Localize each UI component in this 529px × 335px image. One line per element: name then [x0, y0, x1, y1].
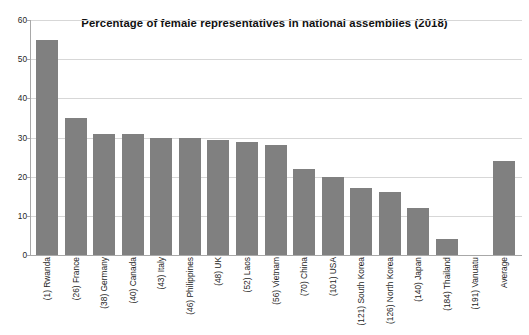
x-axis-tick-label: (38) Germany [93, 257, 115, 333]
x-axis-tick-label: (52) Laos [236, 257, 258, 333]
x-axis-tick-label: (101) USA [322, 257, 344, 333]
x-axis-tick-label: (46) Philippines [179, 257, 201, 333]
y-tick-mark-40 [27, 98, 30, 99]
x-axis-tick-label-text: (140) Japan [414, 257, 422, 302]
y-axis-ticks: 0102030405060 [0, 20, 27, 255]
y-tick-mark-0 [27, 255, 30, 256]
x-axis-tick-label-text: (43) Italy [157, 257, 165, 290]
x-axis-tick-label-text: (184) Thailand [442, 257, 450, 311]
x-axis-tick-label: (191) Vanuatu [464, 257, 486, 333]
bar [122, 134, 144, 255]
x-axis-tick-label: (40) Canada [122, 257, 144, 333]
y-tick-mark-20 [27, 177, 30, 178]
y-tick-mark-60 [27, 20, 30, 21]
bar-series [31, 20, 522, 255]
x-axis-tick-label-text: (1) Rwanda [43, 257, 51, 300]
bar [379, 192, 401, 255]
y-tick-label-30: 30 [3, 134, 27, 142]
y-tick-label-20: 20 [3, 173, 27, 181]
x-axis-tick-label: (1) Rwanda [36, 257, 58, 333]
bar [207, 140, 229, 255]
y-tick-mark-30 [27, 138, 30, 139]
x-axis-tick-label-text: (121) South Korea [357, 257, 365, 325]
bar [407, 208, 429, 255]
bar [493, 161, 515, 255]
x-axis-tick-label-text: (56) Vietnam [271, 257, 279, 305]
bar [93, 134, 115, 255]
x-axis-tick-label: (121) South Korea [350, 257, 372, 333]
x-axis-tick-label-text: (46) Philippines [186, 257, 194, 315]
y-tick-label-60: 60 [3, 16, 27, 24]
x-axis-tick-label: (140) Japan [407, 257, 429, 333]
x-axis-labels: (1) Rwanda(26) France(38) Germany(40) Ca… [31, 257, 522, 335]
x-axis-tick-label-text: (48) UK [214, 257, 222, 286]
y-tick-mark-10 [27, 216, 30, 217]
y-tick-label-50: 50 [3, 55, 27, 63]
x-axis-tick-label: (26) France [65, 257, 87, 333]
y-tick-label-10: 10 [3, 212, 27, 220]
bar [436, 239, 458, 255]
bar [265, 145, 287, 255]
bar [179, 138, 201, 255]
x-axis-tick-label: Average [493, 257, 515, 333]
bar [293, 169, 315, 255]
bar [150, 138, 172, 256]
x-axis-tick-label-text: (70) China [300, 257, 308, 296]
bar [236, 142, 258, 255]
x-axis-tick-label: (126) North Korea [379, 257, 401, 333]
x-axis-tick-label-text: (26) France [72, 257, 80, 300]
bar [36, 40, 58, 255]
x-axis-tick-label: (184) Thailand [436, 257, 458, 333]
x-axis-tick-label: (48) UK [207, 257, 229, 333]
x-axis-tick-label-text: (38) Germany [100, 257, 108, 309]
y-tick-label-0: 0 [3, 251, 27, 259]
x-axis-tick-label-text: (52) Laos [243, 257, 251, 292]
x-axis-tick-label-text: (191) Vanuatu [471, 257, 479, 309]
x-axis-tick-label-text: (101) USA [328, 257, 336, 296]
x-axis-tick-label-text: (126) North Korea [385, 257, 393, 324]
bar [65, 118, 87, 255]
x-axis-tick-label: (56) Vietnam [265, 257, 287, 333]
bar [350, 188, 372, 255]
x-axis-tick-label: (70) China [293, 257, 315, 333]
chart-container: Percentage of female representatives in … [0, 0, 529, 335]
x-axis-tick-label-text: (40) Canada [129, 257, 137, 304]
x-axis-tick-label-text: Average [500, 257, 508, 288]
bar [322, 177, 344, 255]
y-tick-mark-50 [27, 59, 30, 60]
y-tick-label-40: 40 [3, 94, 27, 102]
x-axis-tick-label: (43) Italy [150, 257, 172, 333]
